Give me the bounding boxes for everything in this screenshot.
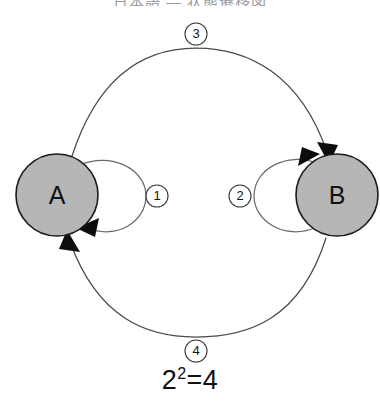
formula-exponent: 2 [177,365,186,382]
badge-one[interactable]: 1 [146,185,168,207]
badge-three-label: 3 [192,26,199,41]
edge-arc-bottom [70,238,326,337]
formula-caption: 22=4 [0,365,380,396]
badge-two-label: 2 [236,188,243,203]
badge-four-label: 4 [192,343,199,358]
node-a[interactable]: A [16,154,98,236]
edge-arc-top [72,48,327,156]
badge-three[interactable]: 3 [185,23,207,45]
badge-one-label: 1 [153,188,160,203]
formula-result: 4 [203,365,219,395]
transition-diagram: A B 1 2 3 4 [0,0,380,410]
badge-four[interactable]: 4 [185,340,207,362]
formula-base: 2 [162,365,178,395]
badge-two[interactable]: 2 [229,185,251,207]
node-a-label: A [49,181,66,209]
node-b[interactable]: B [296,154,378,236]
formula-equals: = [187,365,203,395]
node-b-label: B [329,181,346,209]
diagram-canvas: 日本語 — 状態遷移図 A B 1 2 [0,0,380,410]
